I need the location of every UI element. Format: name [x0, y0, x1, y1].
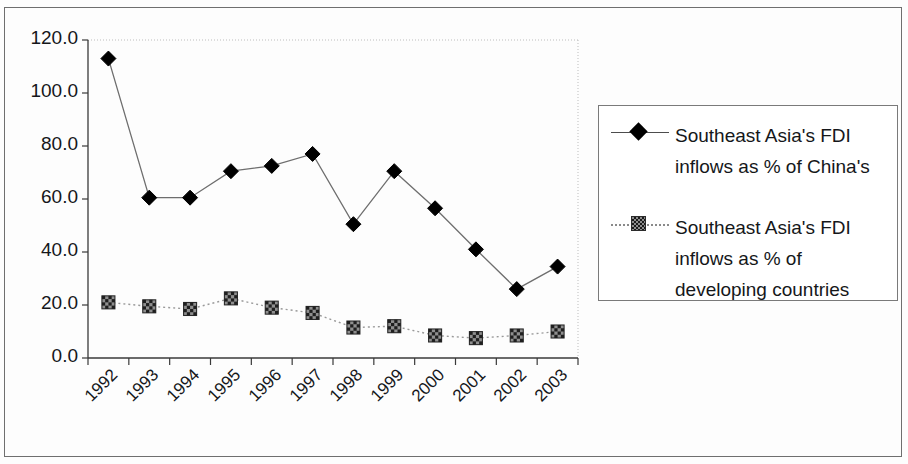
chart-legend: Southeast Asia's FDI inflows as % of Chi…: [598, 105, 898, 301]
y-axis-tick-label: 20.0: [41, 292, 78, 314]
legend-label-developing-line1: Southeast Asia's FDI: [675, 212, 851, 243]
legend-label-china-line1: Southeast Asia's FDI: [675, 120, 870, 151]
legend-item-china: Southeast Asia's FDI inflows as % of Chi…: [599, 120, 897, 182]
legend-key-square-icon: [609, 212, 671, 238]
legend-key-diamond-icon: [609, 120, 671, 146]
y-axis-tick-label: 60.0: [41, 186, 78, 208]
legend-label-developing: Southeast Asia's FDI inflows as % of dev…: [671, 212, 851, 305]
y-axis-tick-label: 100.0: [30, 80, 78, 102]
diamond-marker-icon: [629, 122, 647, 140]
legend-label-china-line2: inflows as % of China's: [675, 151, 870, 182]
legend-label-developing-line2: inflows as % of: [675, 243, 851, 274]
legend-label-china: Southeast Asia's FDI inflows as % of Chi…: [671, 120, 870, 182]
y-axis-tick-label: 0.0: [52, 345, 78, 367]
y-axis-tick-label: 40.0: [41, 239, 78, 261]
square-marker-icon: [631, 216, 646, 231]
legend-item-developing: Southeast Asia's FDI inflows as % of dev…: [599, 212, 897, 305]
legend-label-developing-line3: developing countries: [675, 274, 851, 305]
y-axis-tick-label: 80.0: [41, 133, 78, 155]
chart-figure: 0.020.040.060.080.0100.0120.0 1992199319…: [0, 0, 908, 464]
y-axis-tick-label: 120.0: [30, 27, 78, 49]
